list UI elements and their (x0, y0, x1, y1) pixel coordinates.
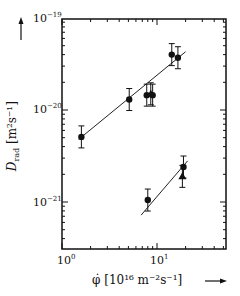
y-axis-label: Drad [m²s⁻¹] (5, 101, 21, 171)
axis-ticks (62, 19, 226, 249)
x-tick-label-mid: 101 (150, 253, 168, 267)
plot-frame (62, 19, 226, 249)
x-tick-label-left: 100 (57, 253, 75, 267)
x-axis-label: φ̇ [10¹⁶ m⁻²s⁻¹] (92, 273, 182, 287)
y-tick-label-mid: 10−20 (33, 102, 62, 116)
fit-lines (79, 52, 188, 215)
x-arrow-icon (205, 279, 227, 284)
data-points (78, 44, 186, 211)
y-tick-label-low: 10−21 (33, 195, 62, 209)
y-tick-label-top: 10−19 (33, 11, 62, 25)
y-arrow-icon (19, 17, 24, 40)
chart-canvas (0, 0, 240, 296)
